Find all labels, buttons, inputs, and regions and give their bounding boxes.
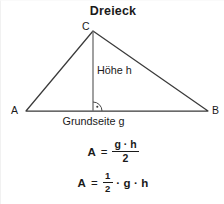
formula-2-fraction: 1 2 [103, 171, 113, 194]
height-label: Höhe h [97, 64, 132, 76]
formula-1-lhs: A [86, 146, 96, 158]
vertex-label-a: A [11, 105, 18, 116]
triangle-figure: Dreieck C A B Höhe h Grundseite g A = g … [0, 0, 224, 204]
right-angle-dot [96, 106, 98, 108]
formula-1-numerator: g · h [112, 139, 138, 151]
vertex-label-b: B [212, 105, 219, 116]
formula-2-denominator: 2 [103, 183, 112, 194]
formula-area-fraction: A = g · h 2 [1, 139, 224, 164]
base-label: Grundseite g [1, 115, 186, 127]
formula-area-half: A = 1 2 · g · h [1, 171, 224, 194]
formula-1-denominator: 2 [121, 152, 131, 164]
formula-2-factor-h: h [140, 177, 149, 189]
formula-1-fraction: g · h 2 [112, 139, 138, 164]
formula-2-lhs: A [77, 177, 87, 189]
formula-1-equals: = [97, 146, 112, 158]
vertex-label-c: C [82, 21, 90, 32]
formula-2-equals: = [87, 177, 102, 189]
formula-2-dot-2: · [132, 177, 141, 189]
formula-2-numerator: 1 [103, 171, 112, 182]
formula-2-dot-1: · [114, 177, 123, 189]
formula-2-factor-g: g [122, 177, 131, 189]
